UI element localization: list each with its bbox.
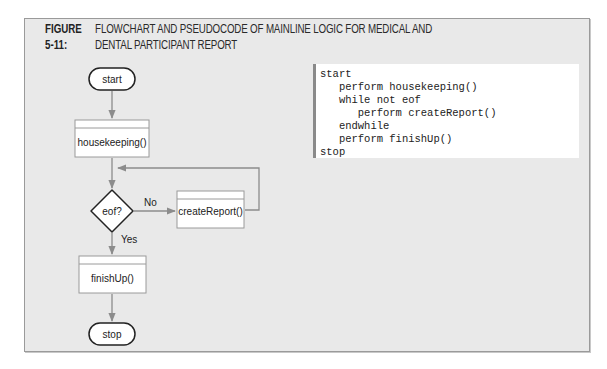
start-terminal: start: [89, 68, 135, 90]
finishup-module: finishUp(): [79, 256, 146, 293]
pseudocode-line: perform housekeeping(): [320, 81, 579, 94]
edge-no-label: No: [144, 197, 157, 208]
stop-label: stop: [103, 329, 122, 340]
pseudocode-line: start: [320, 68, 579, 81]
createreport-label: createReport(): [178, 206, 242, 217]
pseudocode-line: while not eof: [320, 94, 579, 107]
housekeeping-module: housekeeping(): [75, 120, 149, 157]
eof-label: eof?: [102, 206, 122, 217]
finishup-label: finishUp(): [91, 273, 134, 284]
pseudocode-line: endwhile: [320, 120, 579, 133]
eof-decision: eof?: [91, 190, 133, 232]
pseudocode-line: perform createReport(): [320, 107, 579, 120]
housekeeping-label: housekeeping(): [78, 137, 147, 148]
createreport-module: createReport(): [177, 191, 244, 228]
pseudocode-line: perform finishUp(): [320, 133, 579, 146]
pseudocode-box: start perform housekeeping() while not e…: [313, 64, 579, 158]
flowchart: start housekeeping() eof? No createRepor…: [0, 0, 607, 369]
stop-terminal: stop: [89, 323, 135, 345]
start-label: start: [102, 74, 122, 85]
pseudocode-line: stop: [320, 146, 579, 159]
edge-yes-label: Yes: [121, 234, 137, 245]
